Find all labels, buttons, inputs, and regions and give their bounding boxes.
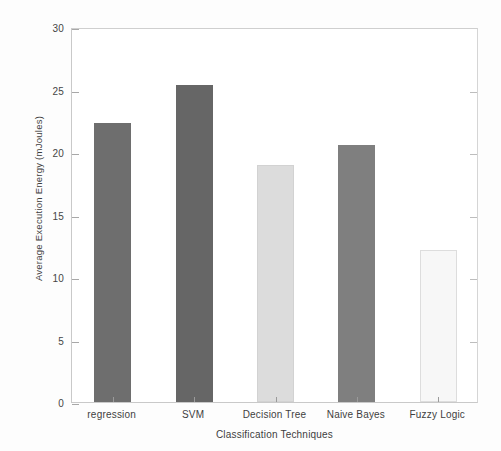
y-tick-mark-right xyxy=(470,92,477,93)
plot-area xyxy=(71,28,478,403)
x-tick-label-svm: SVM xyxy=(182,409,204,420)
x-tick-mark xyxy=(276,397,277,402)
y-tick-mark-right xyxy=(470,154,477,155)
x-tick-label-decision-tree: Decision Tree xyxy=(243,409,307,420)
y-tick-mark xyxy=(72,342,79,343)
y-tick-mark xyxy=(72,279,79,280)
x-tick-mark xyxy=(113,397,114,402)
y-tick-mark xyxy=(72,154,79,155)
x-tick-label-naive-bayes: Naive Bayes xyxy=(327,409,385,420)
bar-fuzzy-logic xyxy=(420,250,457,403)
x-axis-title: Classification Techniques xyxy=(71,429,478,440)
y-tick-label: 30 xyxy=(30,23,64,34)
bar-chart-figure: 051015202530 Average Execution Energy (m… xyxy=(0,0,501,451)
bars-layer xyxy=(72,29,477,402)
y-tick-mark-right xyxy=(470,217,477,218)
y-tick-mark xyxy=(72,92,79,93)
bar-decision-tree xyxy=(257,165,294,403)
y-tick-mark-right xyxy=(470,342,477,343)
y-tick-label: 5 xyxy=(30,335,64,346)
y-tick-mark xyxy=(72,217,79,218)
bar-regression xyxy=(94,123,131,402)
y-tick-mark xyxy=(72,29,79,30)
x-tick-mark xyxy=(438,397,439,402)
y-tick-label: 0 xyxy=(30,398,64,409)
y-tick-mark-right xyxy=(470,279,477,280)
x-tick-label-fuzzy-logic: Fuzzy Logic xyxy=(410,409,466,420)
x-tick-mark xyxy=(357,397,358,402)
x-tick-label-regression: regression xyxy=(87,409,136,420)
y-tick-mark xyxy=(72,404,79,405)
x-axis-tick-labels: regressionSVMDecision TreeNaive BayesFuz… xyxy=(71,409,478,427)
y-axis-title: Average Execution Energy (mJoules) xyxy=(33,69,44,329)
bar-svm xyxy=(176,85,213,403)
bar-naive-bayes xyxy=(338,145,375,403)
x-tick-mark xyxy=(194,397,195,402)
